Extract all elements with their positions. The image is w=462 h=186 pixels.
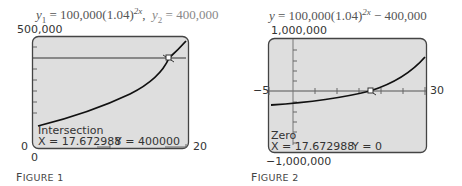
caption-rest: IGURE 1	[23, 172, 64, 183]
figure2-screen-x: X = 17.672988	[271, 140, 354, 153]
figure2-ymax-label: 1,000,000	[271, 24, 327, 37]
caption-rest: IGURE 2	[258, 172, 299, 183]
figure1-plot: Intersection X = 17.672988 Y = 400000 Ze…	[0, 0, 462, 186]
eq-body: = 100,000(1.04)	[275, 8, 363, 23]
figure1-screen-y: Y = 400000	[114, 135, 180, 148]
figure2-caption: FIGURE 2	[251, 171, 299, 184]
figure1-screen-x: X = 17.672988	[38, 135, 121, 148]
figure2-xmin-label: −5	[253, 84, 269, 97]
caption-initial: F	[251, 171, 258, 184]
figure1-caption: FIGURE 1	[16, 171, 64, 184]
figure2-screen-y: Y = 0	[351, 140, 382, 153]
figure1-xmax-label: 20	[193, 140, 207, 153]
figure1-ymin-label: 0	[21, 140, 28, 153]
eq-exp: 2x	[362, 7, 371, 17]
eq-tail: − 400,000	[371, 8, 427, 23]
caption-initial: F	[16, 171, 23, 184]
figure2-ymin-label: −1,000,000	[266, 155, 331, 168]
figure1-xmin-label: 0	[31, 151, 38, 164]
figure2-equation: y = 100,000(1.04)2x − 400,000	[269, 7, 427, 24]
figure2-xmax-label: 30	[430, 84, 444, 97]
